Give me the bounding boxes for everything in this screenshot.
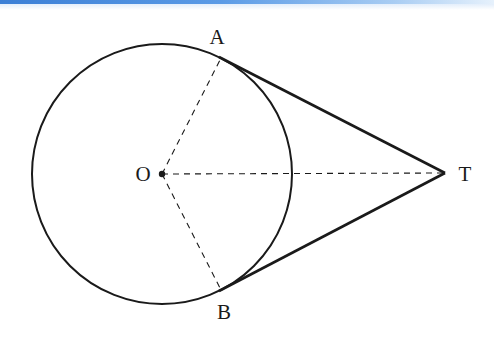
radius-OA [162,58,221,174]
radius-OB [162,174,221,290]
centre-point-dot [159,171,165,177]
label-A: A [209,25,225,49]
tangent-diagram: A O T B [0,0,494,343]
label-T: T [459,162,472,186]
tangent-AT [219,57,445,173]
label-O: O [135,162,150,186]
line-OT [162,173,445,174]
tangent-BT [219,173,445,291]
label-B: B [217,300,231,324]
